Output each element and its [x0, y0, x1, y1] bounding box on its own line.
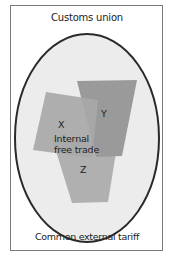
member-z-label: Z	[80, 164, 87, 175]
member-y-label: Y	[101, 108, 107, 119]
diagram-title: Customs union	[10, 12, 164, 23]
common-external-tariff-label: Common external tariff	[10, 231, 164, 242]
internal-free-trade-line1: Internal	[54, 133, 124, 144]
internal-free-trade-line2: free trade	[54, 144, 124, 155]
internal-free-trade-label: Internal free trade	[54, 133, 124, 155]
member-x-label: X	[58, 119, 65, 130]
customs-union-diagram	[0, 0, 174, 259]
